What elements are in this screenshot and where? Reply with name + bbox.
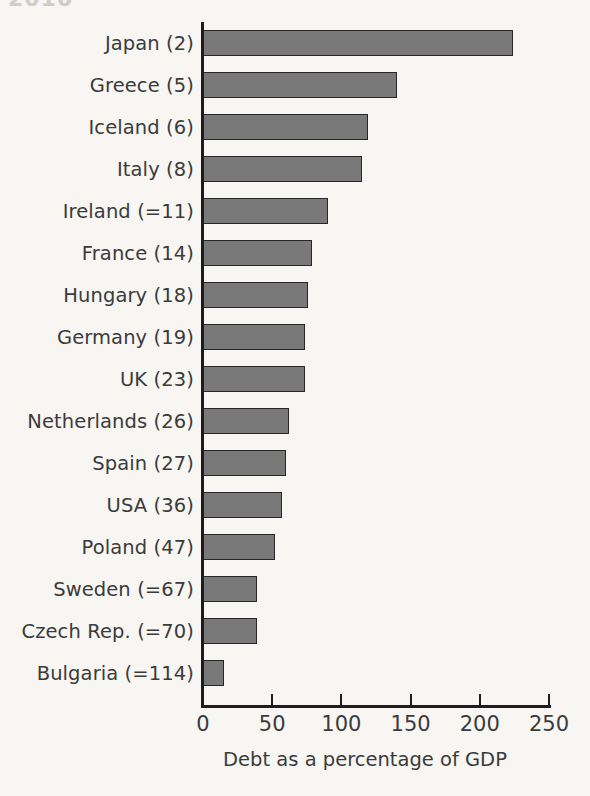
bar-track: [203, 408, 549, 434]
bar-row: Hungary (18): [0, 274, 590, 316]
x-axis-tick: [340, 694, 342, 706]
bar-category-label: Hungary (18): [63, 284, 194, 307]
bar: [203, 366, 305, 392]
bar-category-label: Italy (8): [117, 158, 194, 181]
bar-track: [203, 534, 549, 560]
bar: [203, 198, 328, 224]
bar-row: Iceland (6): [0, 106, 590, 148]
x-axis-tick-label: 250: [529, 712, 569, 736]
x-axis-tick: [271, 694, 273, 706]
bar-category-label: Spain (27): [92, 452, 194, 475]
bar: [203, 492, 282, 518]
bar: [203, 576, 257, 602]
bar-row: Spain (27): [0, 442, 590, 484]
bar: [203, 324, 305, 350]
bar-track: [203, 492, 549, 518]
bar: [203, 72, 397, 98]
x-axis-tick-label: 200: [460, 712, 500, 736]
x-axis-tick-label: 0: [196, 712, 209, 736]
bar: [203, 618, 257, 644]
bar-category-label: Japan (2): [105, 32, 194, 55]
bar: [203, 282, 308, 308]
bar-track: [203, 618, 549, 644]
bar-category-label: Greece (5): [90, 74, 194, 97]
x-axis-tick-label: 100: [321, 712, 361, 736]
bar: [203, 240, 312, 266]
bar-category-label: Czech Rep. (=70): [21, 620, 194, 643]
bar-track: [203, 30, 549, 56]
bar: [203, 114, 368, 140]
y-axis-line: [201, 22, 204, 705]
x-axis-tick: [202, 694, 204, 706]
bar-row: Ireland (=11): [0, 190, 590, 232]
x-axis-tick: [479, 694, 481, 706]
bar: [203, 450, 286, 476]
bar-category-label: UK (23): [120, 368, 194, 391]
bar-track: [203, 324, 549, 350]
bar: [203, 156, 362, 182]
bar-category-label: Bulgaria (=114): [37, 662, 194, 685]
bar-track: [203, 114, 549, 140]
bar: [203, 408, 289, 434]
bar-track: [203, 576, 549, 602]
bar: [203, 660, 224, 686]
bar-rows-container: Japan (2)Greece (5)Iceland (6)Italy (8)I…: [0, 22, 590, 694]
bar-row: Poland (47): [0, 526, 590, 568]
x-axis-title: Debt as a percentage of GDP: [0, 748, 590, 771]
bar-row: Czech Rep. (=70): [0, 610, 590, 652]
bar-chart-plot: Japan (2)Greece (5)Iceland (6)Italy (8)I…: [0, 0, 590, 796]
bar-category-label: Poland (47): [82, 536, 194, 559]
bar: [203, 534, 275, 560]
bar-row: Italy (8): [0, 148, 590, 190]
bar-category-label: Sweden (=67): [53, 578, 194, 601]
bar-row: Bulgaria (=114): [0, 652, 590, 694]
x-axis-line: [201, 705, 551, 708]
bar-category-label: Iceland (6): [89, 116, 195, 139]
bar-category-label: Ireland (=11): [63, 200, 194, 223]
bar-track: [203, 450, 549, 476]
bar-row: Netherlands (26): [0, 400, 590, 442]
bar-row: Germany (19): [0, 316, 590, 358]
x-axis-tick: [548, 694, 550, 706]
bar-row: Japan (2): [0, 22, 590, 64]
bar-category-label: USA (36): [107, 494, 194, 517]
chart-page: 2010 Japan (2)Greece (5)Iceland (6)Italy…: [0, 0, 590, 796]
bar-category-label: Germany (19): [57, 326, 194, 349]
bar-row: UK (23): [0, 358, 590, 400]
bar-category-label: Netherlands (26): [27, 410, 194, 433]
bar-track: [203, 660, 549, 686]
bar-track: [203, 198, 549, 224]
bar-category-label: France (14): [82, 242, 194, 265]
x-axis-tick: [410, 694, 412, 706]
bar-track: [203, 240, 549, 266]
bar-row: Greece (5): [0, 64, 590, 106]
bar-track: [203, 156, 549, 182]
bar-row: Sweden (=67): [0, 568, 590, 610]
x-axis-tick-label: 50: [259, 712, 286, 736]
bar-row: USA (36): [0, 484, 590, 526]
bar-track: [203, 366, 549, 392]
bar-row: France (14): [0, 232, 590, 274]
bar-track: [203, 282, 549, 308]
bar-track: [203, 72, 549, 98]
bar: [203, 30, 513, 56]
x-axis-tick-label: 150: [391, 712, 431, 736]
